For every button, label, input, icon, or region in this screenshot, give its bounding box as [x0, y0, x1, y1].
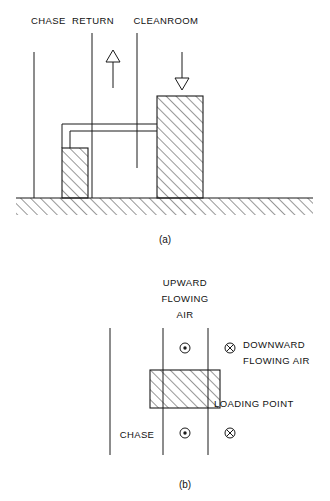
circle-cross-icon-lower — [225, 428, 235, 438]
circle-cross-icon-upper — [225, 343, 235, 353]
label-chase-a: CHASE — [31, 15, 66, 26]
figure-b: UPWARD FLOWING AIR DOWNWARD FLOWING AIR … — [0, 260, 330, 501]
cleanroom-air-down-arrow — [175, 52, 189, 90]
label-upward-air-line3: AIR — [176, 309, 193, 320]
ground-band — [16, 198, 313, 215]
label-downward-air-line1: DOWNWARD — [243, 339, 305, 350]
label-return-a: RETURN — [72, 15, 114, 26]
diagram-page: CHASE RETURN CLEANROOM — [0, 0, 330, 501]
cleanroom-block — [157, 96, 203, 198]
label-upward-air-line2: FLOWING — [161, 293, 208, 304]
label-chase-b: CHASE — [120, 429, 155, 440]
label-loading-point: LOADING POINT — [214, 398, 294, 409]
caption-a: (a) — [159, 234, 171, 245]
label-downward-air-line2: FLOWING AIR — [243, 355, 310, 366]
circle-dot-icon-upper — [180, 343, 190, 353]
chase-block — [62, 148, 88, 198]
figure-a: CHASE RETURN CLEANROOM — [0, 0, 330, 260]
caption-b: (b) — [179, 479, 191, 490]
duct — [62, 124, 157, 148]
circle-dot-icon-lower — [180, 428, 190, 438]
label-upward-air-line1: UPWARD — [163, 277, 207, 288]
return-air-up-arrow — [106, 50, 120, 88]
loading-point-block — [150, 370, 220, 408]
label-cleanroom-a: CLEANROOM — [134, 15, 199, 26]
